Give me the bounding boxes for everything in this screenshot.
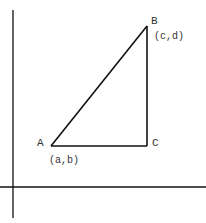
point-label-B: B <box>151 15 158 27</box>
point-label-A: A <box>37 137 44 149</box>
coord-label-A: (a,b) <box>49 155 79 166</box>
coordinate-diagram: B (c,d) A (a,b) C <box>0 0 206 223</box>
hypotenuse-AB <box>51 26 147 146</box>
coord-label-B: (c,d) <box>154 31 184 42</box>
point-label-C: C <box>152 137 159 149</box>
right-triangle <box>51 26 147 146</box>
